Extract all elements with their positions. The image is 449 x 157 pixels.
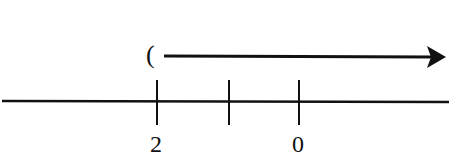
solution-ray-line (164, 56, 432, 57)
number-line-axis (2, 101, 449, 102)
open-endpoint-paren: ( (146, 40, 155, 69)
tick-label-3: 0 (292, 131, 304, 157)
tick-label-1: 2 (150, 131, 162, 157)
number-line-diagram: 2 0 ( (0, 0, 449, 157)
